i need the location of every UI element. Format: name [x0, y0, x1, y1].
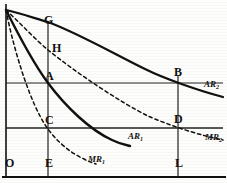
curve-label-mr1-base: MR [88, 154, 102, 164]
label-E: E [45, 157, 53, 169]
label-C: C [45, 114, 54, 126]
curve-label-ar1: AR1 [128, 132, 143, 142]
curve-label-ar2-sub: 2 [216, 84, 219, 90]
curve-label-mr1: MR1 [88, 155, 105, 165]
label-O: O [5, 157, 14, 169]
curve-label-mr2-base: MR [205, 132, 219, 142]
curve-label-ar2-base: AR [204, 79, 216, 89]
label-H: H [52, 42, 61, 54]
revenue-curves-figure: G H A B C D O E L AR2 AR1 MR2 MR1 [0, 0, 227, 183]
diagram-canvas [0, 0, 227, 183]
curve-label-mr2-sub: 2 [219, 137, 222, 143]
label-G: G [44, 14, 53, 26]
label-A: A [45, 70, 54, 82]
curve-label-ar1-base: AR [128, 131, 140, 141]
curve-label-mr2: MR2 [205, 133, 222, 143]
reference-lines-group [6, 22, 223, 177]
label-D: D [174, 113, 183, 125]
label-L: L [175, 157, 183, 169]
curve-label-ar2: AR2 [204, 80, 219, 90]
label-B: B [174, 66, 182, 78]
axes-group [2, 4, 226, 177]
curve-label-mr1-sub: 1 [102, 159, 105, 165]
curve-mr2 [6, 10, 223, 140]
curve-ar2 [6, 10, 223, 97]
curves-group [6, 10, 223, 164]
curve-label-ar1-sub: 1 [140, 136, 143, 142]
